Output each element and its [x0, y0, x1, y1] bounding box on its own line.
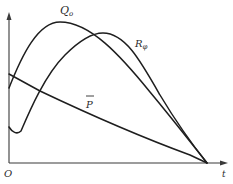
- label-q: Qo: [60, 4, 73, 18]
- diagram-canvas: Qo Rφ P O t: [0, 0, 233, 184]
- label-p-bar: P: [85, 99, 93, 110]
- curve-r-phi: [9, 33, 207, 163]
- label-r: Rφ: [134, 38, 148, 51]
- x-axis-label: t: [222, 169, 226, 179]
- curve-p-bar: [9, 74, 207, 163]
- y-axis-arrow-icon: [7, 12, 12, 20]
- origin-label: O: [4, 168, 12, 179]
- x-axis-arrow-icon: [220, 161, 228, 166]
